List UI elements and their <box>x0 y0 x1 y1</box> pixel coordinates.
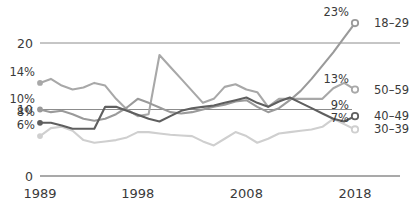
end-value-label-40-49: 9% <box>331 98 349 112</box>
series-label-50-59: 50–59 <box>374 83 409 97</box>
start-value-label-18-29: 10% <box>9 92 35 106</box>
x-tick-label-1998: 1998 <box>121 186 154 201</box>
end-value-label-50-59: 13% <box>323 72 349 86</box>
end-marker-40-49 <box>352 113 358 119</box>
start-marker-50-59 <box>37 80 43 86</box>
x-tick-label-2018: 2018 <box>338 186 371 201</box>
line-chart: 01020198919982008201810%23%18–2914%13%50… <box>0 0 418 206</box>
end-value-label-18-29: 23% <box>323 5 349 19</box>
start-marker-18-29 <box>37 107 43 113</box>
x-tick-label-2008: 2008 <box>230 186 263 201</box>
series-label-18-29: 18–29 <box>374 16 409 30</box>
end-marker-30-39 <box>352 126 358 132</box>
series-label-30-39: 30–39 <box>374 122 409 136</box>
series-line-30-39 <box>40 119 355 146</box>
end-value-label-30-39: 7% <box>331 111 349 125</box>
x-tick-label-1989: 1989 <box>23 186 56 201</box>
y-tick-label-0: 0 <box>25 169 33 184</box>
end-marker-50-59 <box>352 86 358 92</box>
series-line-40-49 <box>40 98 355 129</box>
series-label-40-49: 40–49 <box>374 109 409 123</box>
start-value-label-40-49: 8% <box>17 105 35 119</box>
chart-canvas: 01020198919982008201810%23%18–2914%13%50… <box>0 0 418 206</box>
start-value-label-50-59: 14% <box>9 65 35 79</box>
y-tick-label-20: 20 <box>17 36 33 51</box>
start-value-label-30-39: 6% <box>17 118 35 132</box>
end-marker-18-29 <box>352 20 358 26</box>
start-marker-40-49 <box>37 120 43 126</box>
start-marker-30-39 <box>37 133 43 139</box>
